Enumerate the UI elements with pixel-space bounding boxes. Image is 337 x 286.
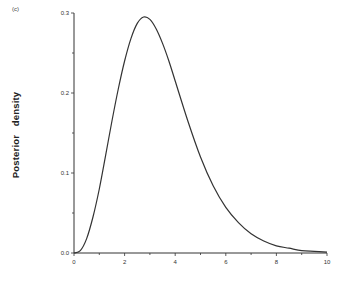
- y-tick-label: 0.1: [61, 170, 70, 176]
- y-tick-label: 0.0: [61, 250, 70, 256]
- x-tick-label: 2: [123, 259, 127, 265]
- axes: 02468100.00.10.20.3: [61, 10, 331, 265]
- x-tick-label: 8: [275, 259, 279, 265]
- x-tick-label: 0: [72, 259, 76, 265]
- density-curve: [74, 17, 327, 253]
- x-tick-label: 10: [324, 259, 331, 265]
- y-tick-label: 0.3: [61, 10, 70, 16]
- x-tick-label: 4: [174, 259, 178, 265]
- x-tick-label: 6: [224, 259, 228, 265]
- density-chart: 02468100.00.10.20.3: [0, 0, 337, 286]
- y-tick-label: 0.2: [61, 90, 70, 96]
